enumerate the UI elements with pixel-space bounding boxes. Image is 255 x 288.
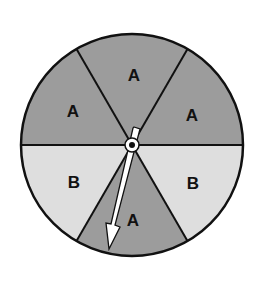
section-label: B	[187, 174, 199, 193]
spinner-diagram: A A B A B A	[0, 0, 255, 288]
section-label: A	[67, 102, 79, 121]
section-label: B	[68, 173, 80, 192]
section-label: A	[186, 106, 198, 125]
section-label: A	[128, 66, 140, 85]
section-label: A	[127, 211, 139, 230]
hub-pin-icon	[129, 142, 135, 148]
